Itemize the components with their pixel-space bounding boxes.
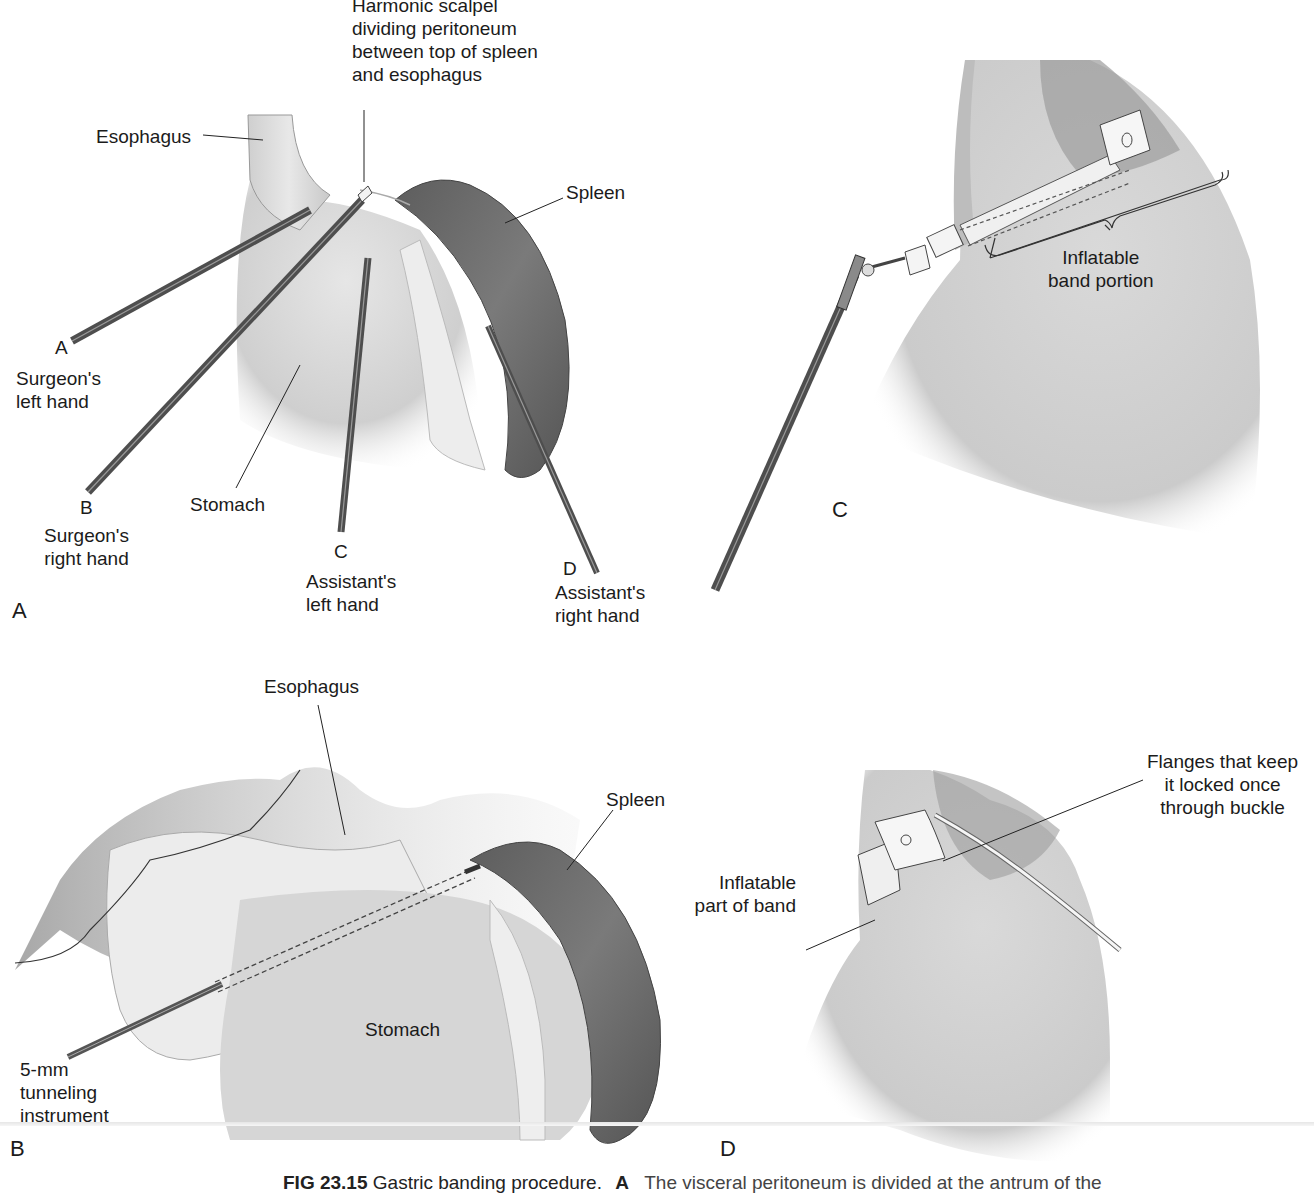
- label-spleen-b: Spleen: [606, 788, 665, 811]
- label-esophagus-b: Esophagus: [264, 675, 359, 698]
- label-inflatable-band-portion: Inflatable band portion: [1048, 246, 1154, 292]
- caption-text: The visceral peritoneum is divided at th…: [644, 1172, 1101, 1193]
- panel-letter-c: C: [832, 497, 848, 523]
- gastric-banding-illustration: [0, 0, 1314, 1195]
- label-instrument-b-letter: B: [80, 496, 93, 519]
- bottom-separator: [0, 1122, 1314, 1126]
- caption-panel-ref: A: [615, 1172, 629, 1193]
- label-surgeon-right-hand: Surgeon's right hand: [44, 524, 129, 570]
- label-instrument-a-letter: A: [55, 336, 68, 359]
- label-assistant-right-hand: Assistant's right hand: [555, 581, 645, 627]
- panel-d-drawing: [790, 770, 1143, 1162]
- panel-a-drawing: [72, 110, 597, 573]
- panel-b-drawing: [15, 705, 661, 1143]
- label-stomach-a: Stomach: [190, 493, 265, 516]
- label-surgeon-left-hand: Surgeon's left hand: [16, 367, 101, 413]
- label-tunneling-instrument: 5-mm tunneling instrument: [20, 1058, 109, 1127]
- figure-number: FIG 23.15: [283, 1172, 368, 1193]
- figure-title: Gastric banding procedure.: [373, 1172, 602, 1193]
- label-esophagus-a: Esophagus: [96, 125, 191, 148]
- figure-caption: FIG 23.15 Gastric banding procedure. A T…: [283, 1172, 1102, 1194]
- panel-letter-d: D: [720, 1136, 736, 1162]
- label-stomach-b: Stomach: [365, 1018, 440, 1041]
- label-spleen-a: Spleen: [566, 181, 625, 204]
- label-instrument-d-letter: D: [563, 557, 577, 580]
- label-inflatable-part-of-band: Inflatable part of band: [688, 871, 796, 917]
- label-harmonic-scalpel: Harmonic scalpel dividing peritoneum bet…: [352, 0, 538, 86]
- panel-c-drawing: [715, 60, 1260, 590]
- panel-letter-a: A: [12, 598, 27, 624]
- label-instrument-c-letter: C: [334, 540, 348, 563]
- label-flanges: Flanges that keep it locked once through…: [1147, 750, 1298, 819]
- panel-letter-b: B: [10, 1136, 25, 1162]
- label-assistant-left-hand: Assistant's left hand: [306, 570, 396, 616]
